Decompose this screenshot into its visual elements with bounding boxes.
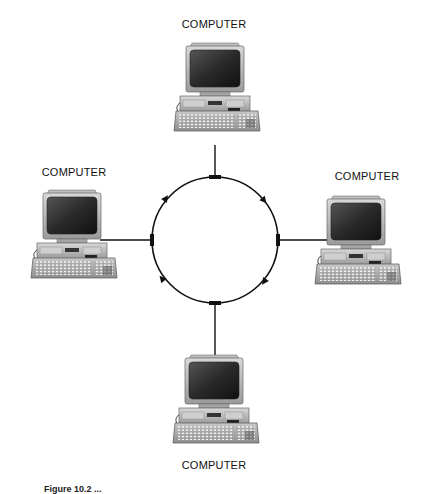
arrow-icon <box>161 193 171 203</box>
figure-caption: Figure 10.2 ... <box>44 484 102 494</box>
ring-circle <box>152 177 278 303</box>
arrow-icon <box>259 277 269 287</box>
computer-right-icon <box>315 196 401 284</box>
direction-arrows <box>157 193 269 286</box>
computer-left-icon <box>31 190 117 278</box>
junction-taps <box>150 175 280 305</box>
computer-right-label: COMPUTER <box>335 170 400 182</box>
computer-top-label: COMPUTER <box>182 18 247 30</box>
computer-left-label: COMPUTER <box>42 166 107 178</box>
computer-bottom-label: COMPUTER <box>182 459 247 471</box>
computer-bottom-icon <box>173 355 259 443</box>
computer-top-icon <box>174 43 260 131</box>
ring-network <box>100 145 330 355</box>
